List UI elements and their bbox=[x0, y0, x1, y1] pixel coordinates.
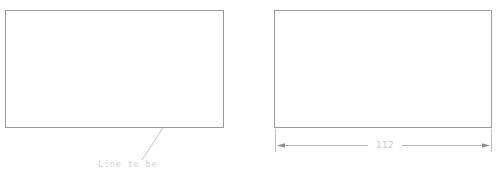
right-rectangle-group bbox=[275, 11, 492, 128]
drawing-canvas: Line to be selected 112 bbox=[0, 0, 501, 180]
dimension-arrowhead-right bbox=[482, 143, 490, 148]
selection-annotation-label: Line to be selected bbox=[70, 150, 162, 180]
left-rectangle-group bbox=[6, 11, 224, 128]
left-rectangle[interactable] bbox=[6, 11, 224, 128]
right-rectangle[interactable] bbox=[275, 11, 492, 128]
dimension-arrowhead-left bbox=[277, 143, 285, 148]
annotation-line-1: Line to be bbox=[98, 160, 157, 169]
dimension-value-label[interactable]: 112 bbox=[368, 140, 402, 150]
